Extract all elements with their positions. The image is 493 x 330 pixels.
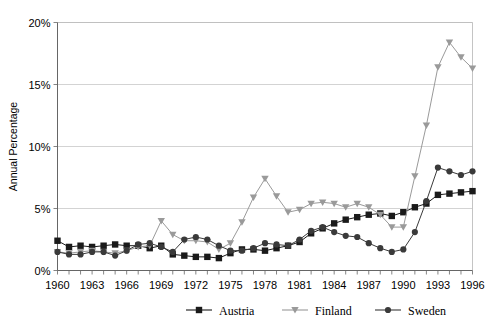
data-point-circle [262,240,268,246]
data-point-circle [366,240,372,246]
data-point-square [66,244,72,250]
data-point-square [342,216,348,222]
data-point-circle [400,246,406,252]
data-point-circle [66,251,72,257]
data-point-square [435,192,441,198]
data-point-circle [112,253,118,259]
data-point-triangle [434,64,441,71]
data-point-circle [469,168,475,174]
data-point-circle [77,251,83,257]
x-tick-label: 1963 [80,279,104,291]
y-tick-label: 20% [28,17,50,29]
data-point-circle [343,233,349,239]
data-point-square [204,254,210,260]
data-point-circle [101,249,107,255]
data-point-circle [435,164,441,170]
x-tick-label: 1969 [149,279,173,291]
chart-legend: AustriaFinlandSweden [186,304,446,318]
data-point-square [331,220,337,226]
data-point-circle [412,229,418,235]
data-point-circle [54,249,60,255]
data-point-circle [89,249,95,255]
data-point-triangle [227,240,234,247]
x-tick-label: 1966 [114,279,138,291]
y-tick-label: 10% [28,141,50,153]
series-line [58,42,473,253]
legend-label: Austria [219,304,255,318]
data-point-square [100,243,106,249]
data-point-circle [227,248,233,254]
data-point-circle [320,224,326,230]
data-point-triangle [250,194,257,201]
legend-item-sweden[interactable]: Sweden [375,304,446,318]
data-point-square [54,238,60,244]
data-point-circle [135,241,141,247]
data-point-circle [239,248,245,254]
data-point-circle [389,249,395,255]
data-point-triangle [365,204,372,211]
data-point-circle [331,229,337,235]
data-point-circle [250,245,256,251]
data-point-triangle [284,209,291,216]
data-point-square [354,214,360,220]
y-axis-title: Annual Percentage [7,102,19,191]
x-tick-label: 1993 [426,279,450,291]
chart-canvas: 0%5%10%15%20% 19601963196619691972197519… [0,0,493,330]
data-series [54,39,476,261]
data-point-triangle [469,65,476,72]
data-point-circle [458,172,464,178]
x-tick-label: 1987 [357,279,381,291]
data-point-square [216,255,222,261]
legend-item-austria[interactable]: Austria [186,304,255,318]
data-point-circle [147,240,153,246]
data-point-square [193,254,199,260]
x-tick-label: 1981 [287,279,311,291]
y-axis-title-text: Annual Percentage [7,102,19,191]
data-point-square [112,241,118,247]
x-tick-label: 1996 [460,279,484,291]
legend-label: Finland [315,304,352,318]
data-point-triangle [423,123,430,130]
data-point-square [181,252,187,258]
x-tick-label: 1978 [253,279,277,291]
x-tick-label: 1972 [184,279,208,291]
x-tick-label: 1960 [45,279,69,291]
data-point-circle [446,168,452,174]
y-tick-label: 5% [35,203,51,215]
legend-label: Sweden [408,304,446,318]
data-point-square [196,307,202,313]
data-point-square [469,188,475,194]
data-point-triangle [273,193,280,200]
data-point-square [366,212,372,218]
x-tick-label: 1984 [322,279,346,291]
data-point-circle [385,307,391,313]
y-tick-label: 0% [35,265,51,277]
data-point-circle [170,249,176,255]
data-point-circle [216,243,222,249]
data-point-triangle [261,176,268,183]
data-point-circle [193,234,199,240]
data-point-triangle [411,173,418,180]
x-axis-ticks: 1960196319661969197219751978198119841987… [45,271,484,291]
data-point-circle [354,234,360,240]
data-point-triangle [169,232,176,239]
data-point-triangle [342,204,349,211]
data-point-circle [204,236,210,242]
data-point-circle [124,248,130,254]
data-point-triangle [307,201,314,208]
y-axis-ticks: 0%5%10%15%20% [28,17,57,277]
data-point-circle [423,198,429,204]
data-point-square [412,204,418,210]
legend-item-finland[interactable]: Finland [282,304,352,318]
data-point-circle [285,243,291,249]
line-chart: 0%5%10%15%20% 19601963196619691972197519… [0,0,493,330]
data-point-circle [296,236,302,242]
data-point-square [77,243,83,249]
data-point-square [400,209,406,215]
data-point-circle [158,244,164,250]
x-tick-label: 1990 [391,279,415,291]
data-point-square [446,190,452,196]
x-tick-label: 1975 [218,279,242,291]
data-point-circle [181,236,187,242]
data-point-square [458,189,464,195]
